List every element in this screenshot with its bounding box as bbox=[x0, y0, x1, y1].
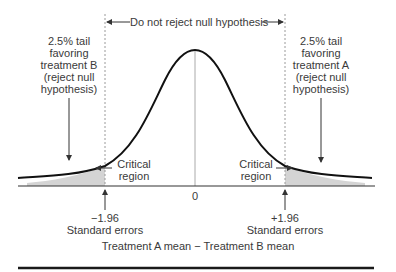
critical-region-right-label: Critical region bbox=[234, 158, 278, 182]
x-axis-label: Treatment A mean − Treatment B mean bbox=[100, 240, 296, 252]
center-zero-label: 0 bbox=[188, 190, 202, 202]
do-not-reject-label: Do not reject null hypothesis bbox=[130, 16, 262, 28]
right-cutoff-label: +1.96 Standard errors bbox=[242, 212, 328, 236]
critical-region-left-label: Critical region bbox=[112, 158, 156, 182]
right-tail-label: 2.5% tail favoring treatment A (reject n… bbox=[286, 35, 356, 95]
left-cutoff-label: −1.96 Standard errors bbox=[62, 212, 148, 236]
left-tail-label: 2.5% tail favoring treatment B (reject n… bbox=[34, 35, 104, 95]
